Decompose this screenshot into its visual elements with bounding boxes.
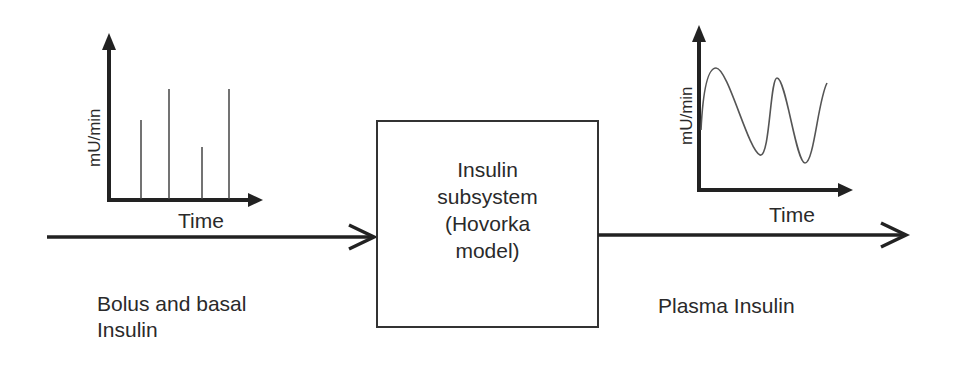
input-label: Bolus and basal Insulin	[97, 291, 246, 343]
input-chart-xlabel: Time	[178, 208, 224, 234]
output-chart-xlabel: Time	[769, 202, 815, 228]
input-mini-chart	[102, 33, 263, 207]
input-chart-ylabel: mU/min	[85, 108, 105, 167]
output-mini-chart	[692, 25, 853, 197]
plasma-insulin-curve	[701, 68, 827, 163]
output-chart-ylabel: mU/min	[677, 86, 697, 145]
block-label-line2: subsystem	[437, 183, 537, 210]
output-label: Plasma Insulin	[658, 293, 795, 319]
output-arrow	[598, 223, 906, 247]
input-label-line2: Insulin	[97, 317, 246, 343]
output-chart-y-arrowhead-icon	[692, 25, 706, 42]
block-label: Insulin subsystem (Hovorka model)	[377, 107, 598, 313]
input-chart-y-arrowhead-icon	[102, 33, 116, 50]
block-label-line3: (Hovorka	[445, 210, 530, 237]
block-label-line1: Insulin	[457, 156, 518, 183]
input-chart-x-arrowhead-icon	[248, 193, 263, 207]
input-label-line1: Bolus and basal	[97, 291, 246, 317]
block-label-line4: model)	[455, 237, 519, 264]
output-chart-x-arrowhead-icon	[838, 183, 853, 197]
